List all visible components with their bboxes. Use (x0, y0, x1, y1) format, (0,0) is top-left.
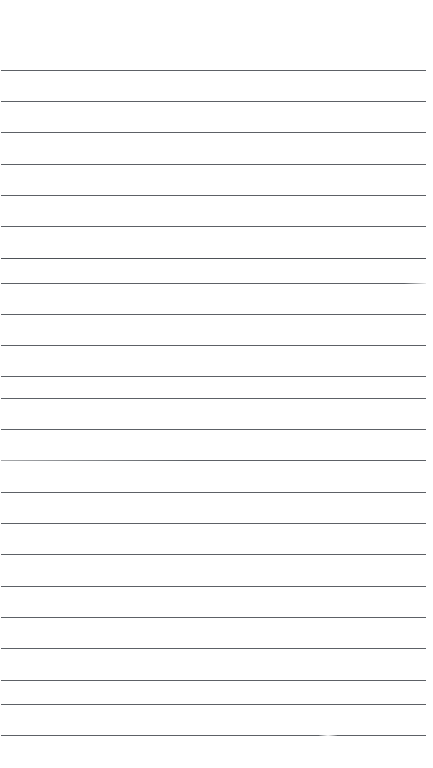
ruled-line (1, 523, 426, 524)
ruled-line (1, 283, 426, 284)
ruled-line (1, 492, 426, 493)
ruled-line (1, 132, 426, 133)
ruled-line (1, 554, 426, 555)
ruled-line (1, 460, 426, 461)
ruled-line (1, 617, 426, 618)
writing-area[interactable] (0, 0, 433, 768)
ruled-line (1, 101, 426, 102)
ruled-line (1, 164, 426, 165)
ruled-line (1, 648, 426, 649)
ruled-line (1, 704, 426, 705)
ruled-line (1, 195, 426, 196)
ruled-line (1, 586, 426, 587)
ruled-line (1, 314, 426, 315)
ruled-line (1, 345, 426, 346)
ruled-line (1, 376, 426, 377)
lined-paper-page (0, 0, 433, 768)
ruled-line (1, 429, 426, 430)
ruled-line (1, 258, 426, 259)
ruled-line (1, 398, 426, 399)
ruled-line (1, 735, 426, 736)
ruled-line (1, 680, 426, 681)
ruled-line (1, 70, 426, 71)
ruled-line (1, 226, 426, 227)
